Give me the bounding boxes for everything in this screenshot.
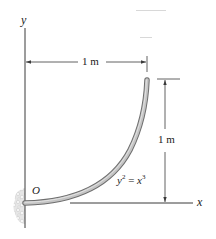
arrow-right-icon bbox=[141, 60, 146, 63]
origin-label: O bbox=[32, 185, 40, 196]
equation-rhs-exponent: 3 bbox=[142, 173, 146, 181]
arrow-up-icon bbox=[163, 80, 166, 85]
equation-equals: = bbox=[125, 174, 137, 186]
horizontal-dimension-label: 1 m bbox=[82, 56, 99, 67]
rod-diagram: y x O 1 m 1 m y2 = x3 bbox=[0, 0, 216, 239]
diagram-graphics bbox=[0, 0, 216, 239]
x-axis-label: x bbox=[197, 196, 202, 208]
scan-artifact-line bbox=[136, 10, 166, 11]
wall-support bbox=[13, 188, 25, 224]
curve-equation: y2 = x3 bbox=[117, 174, 146, 186]
y-axis-label: y bbox=[21, 14, 26, 26]
arrow-down-icon bbox=[163, 197, 166, 202]
arrow-left-icon bbox=[26, 60, 31, 63]
vertical-dimension-label: 1 m bbox=[158, 134, 175, 145]
scan-artifact-line bbox=[140, 37, 152, 38]
